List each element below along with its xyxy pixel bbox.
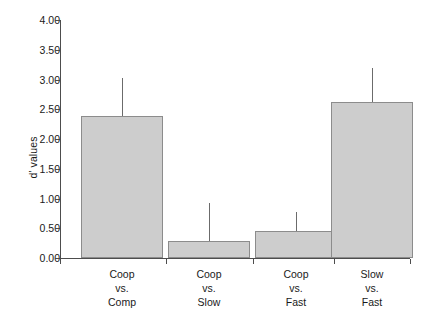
- category-label: Coopvs.Slow: [196, 267, 221, 309]
- bar: [331, 102, 413, 258]
- category-label-line: vs.: [196, 281, 221, 295]
- bar: [81, 116, 163, 258]
- x-axis-tick: [334, 259, 335, 264]
- bar: [168, 241, 250, 258]
- chart-container: d' values 0.000.501.001.502.002.503.003.…: [0, 0, 427, 315]
- category-label-line: Coop: [108, 267, 136, 281]
- category-label-line: vs.: [108, 281, 136, 295]
- category-label-line: Fast: [361, 295, 384, 309]
- category-label-line: Fast: [283, 295, 308, 309]
- category-label: Coopvs.Comp: [108, 267, 136, 309]
- category-label-line: Slow: [196, 295, 221, 309]
- error-bar: [209, 203, 210, 241]
- x-axis-tick: [253, 259, 254, 264]
- x-axis-tick: [166, 259, 167, 264]
- category-label-line: vs.: [361, 281, 384, 295]
- category-label-line: Coop: [283, 267, 308, 281]
- category-label-line: Comp: [108, 295, 136, 309]
- y-axis-tick-labels: 0.000.501.001.502.002.503.003.504.00: [24, 0, 60, 315]
- category-label: Slowvs.Fast: [361, 267, 384, 309]
- x-axis-tick: [60, 259, 61, 264]
- category-label-line: Slow: [361, 267, 384, 281]
- error-bar: [296, 212, 297, 232]
- category-label-line: vs.: [283, 281, 308, 295]
- bar: [255, 231, 337, 258]
- error-bar: [372, 68, 373, 103]
- y-axis-line: [60, 20, 61, 259]
- x-axis-line: [60, 258, 410, 259]
- error-bar: [122, 78, 123, 116]
- category-label-line: Coop: [196, 267, 221, 281]
- x-axis-tick: [410, 259, 411, 264]
- category-label: Coopvs.Fast: [283, 267, 308, 309]
